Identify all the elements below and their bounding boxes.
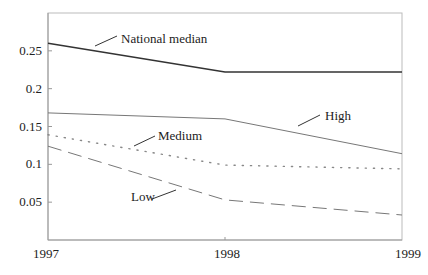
leader-line-low [152,190,176,199]
line-chart: 0.050.10.150.20.25 199719981999 National… [0,0,428,275]
leader-line-high [298,115,320,126]
series-label-medium: Medium [158,128,202,143]
y-tick-label: 0.25 [19,43,42,58]
series-line-low [48,146,402,215]
plot-border [48,13,402,240]
series-label-national-median: National median [121,31,208,46]
y-tick-label: 0.1 [26,156,42,171]
series-line-medium [48,135,402,169]
series-lines [48,43,402,215]
x-axis: 199719981999 [33,237,421,261]
y-axis: 0.050.10.150.20.25 [19,43,52,209]
leader-line-medium [134,136,155,146]
y-tick-label: 0.2 [26,81,42,96]
series-label-low: Low [131,189,155,204]
y-tick-label: 0.05 [19,194,42,209]
x-tick-label: 1997 [33,246,60,261]
leader-line-national-median [95,36,117,46]
plot-frame [48,13,402,240]
series-line-national-median [48,43,402,72]
series-label-high: High [325,108,352,123]
chart-canvas: 0.050.10.150.20.25 199719981999 National… [0,0,428,275]
y-tick-label: 0.15 [19,119,42,134]
x-tick-label: 1999 [395,246,421,261]
x-tick-label: 1998 [214,246,240,261]
